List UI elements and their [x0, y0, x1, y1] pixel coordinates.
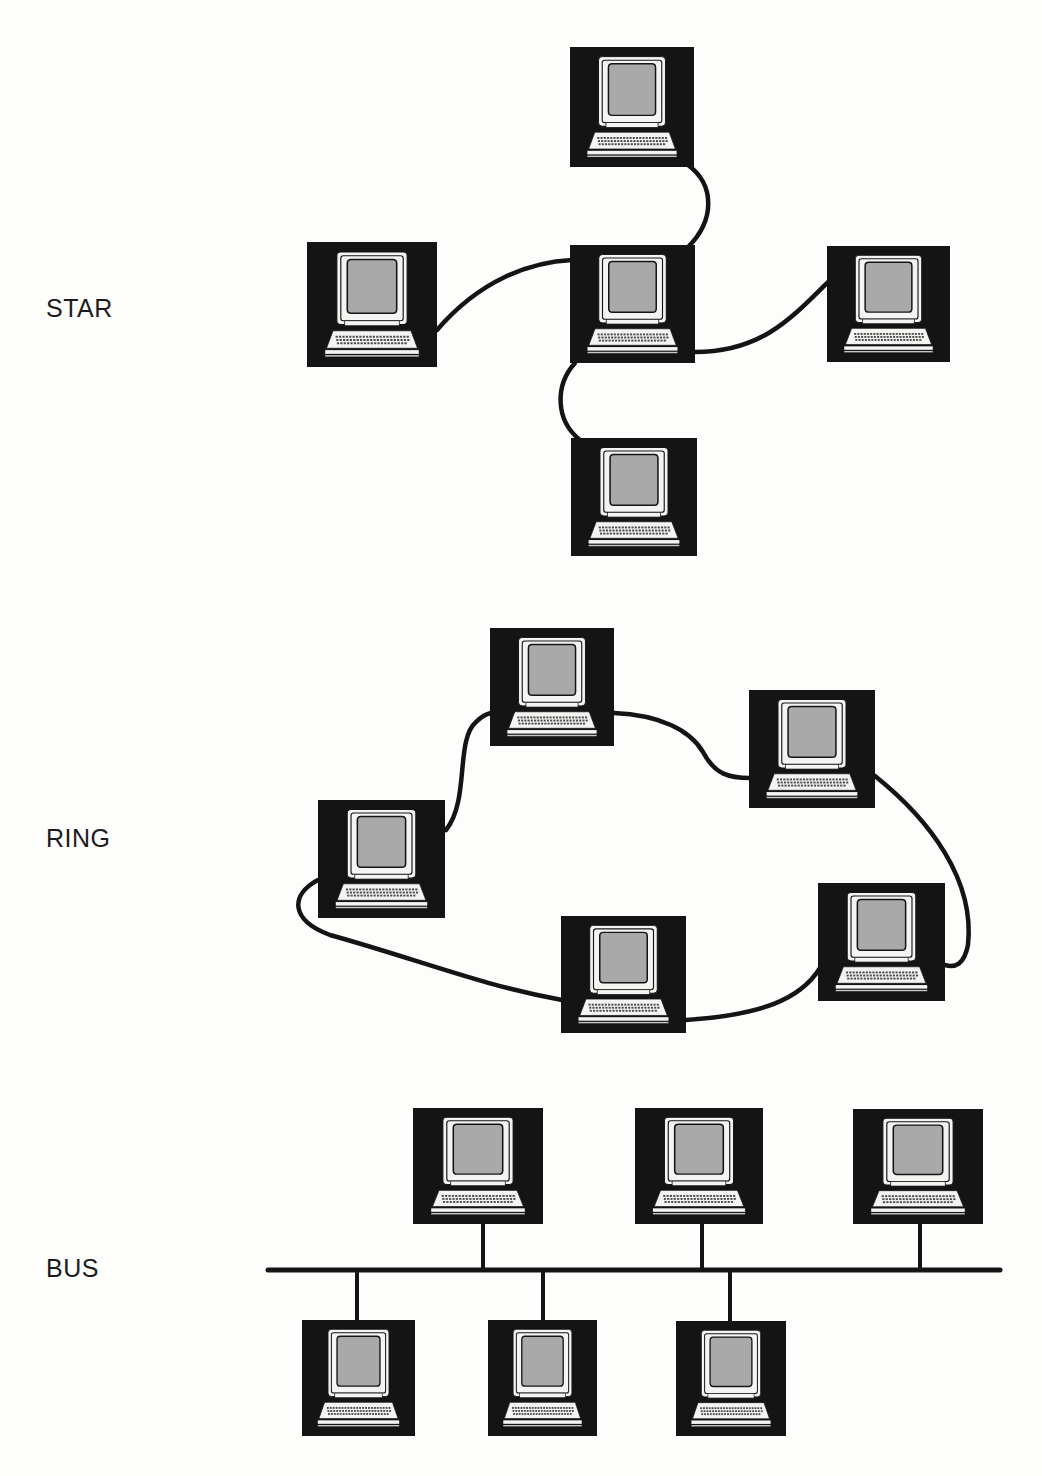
ring-left-computer	[318, 800, 445, 918]
star-link-bottom	[561, 363, 580, 440]
ring-link-left-top	[446, 713, 491, 830]
ring-bottom-right-computer	[818, 883, 945, 1001]
computer-icon	[571, 438, 697, 556]
star-link-right	[695, 281, 829, 352]
computer-icon	[570, 245, 695, 363]
computer-icon	[318, 800, 445, 918]
computer-icon	[561, 916, 686, 1033]
ring-link-bright-bottom	[686, 968, 820, 1020]
bus-label: BUS	[46, 1256, 99, 1281]
computer-icon	[676, 1321, 786, 1436]
computer-icon	[570, 47, 694, 167]
star-top-computer	[570, 47, 694, 167]
star-link-left	[437, 260, 572, 330]
computer-icon	[827, 246, 950, 362]
star-left-computer	[307, 242, 437, 367]
star-label: STAR	[46, 296, 113, 321]
ring-bottom-computer	[561, 916, 686, 1033]
computer-icon	[818, 883, 945, 1001]
star-link-top	[688, 165, 708, 247]
bus-top-computer-1	[413, 1108, 543, 1224]
star-hub-computer	[570, 245, 695, 363]
star-bottom-computer	[571, 438, 697, 556]
computer-icon	[302, 1320, 415, 1436]
computer-icon	[749, 690, 875, 808]
bus-bottom-computer-3	[676, 1321, 786, 1436]
ring-top-computer	[490, 628, 614, 746]
network-topology-diagram: STAR RING BUS	[0, 0, 1042, 1476]
ring-link-top-topright	[614, 713, 750, 778]
computer-icon	[488, 1320, 597, 1436]
ring-label: RING	[46, 826, 111, 851]
computer-icon	[853, 1109, 983, 1224]
computer-icon	[307, 242, 437, 367]
bus-bottom-computer-2	[488, 1320, 597, 1436]
bus-bottom-computer-1	[302, 1320, 415, 1436]
computer-icon	[490, 628, 614, 746]
bus-top-computer-2	[635, 1108, 763, 1224]
computer-icon	[413, 1108, 543, 1224]
ring-top-right-computer	[749, 690, 875, 808]
star-right-computer	[827, 246, 950, 362]
computer-icon	[635, 1108, 763, 1224]
bus-top-computer-3	[853, 1109, 983, 1224]
